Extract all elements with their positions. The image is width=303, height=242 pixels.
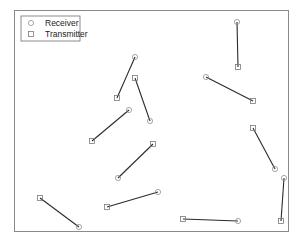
transmitter-receiver-diagram: Receiver Transmitter <box>0 0 303 242</box>
plot-frame <box>15 11 289 232</box>
legend-label-transmitter: Transmitter <box>45 29 88 39</box>
legend-label-receiver: Receiver <box>45 18 79 28</box>
legend: Receiver Transmitter <box>21 16 88 41</box>
